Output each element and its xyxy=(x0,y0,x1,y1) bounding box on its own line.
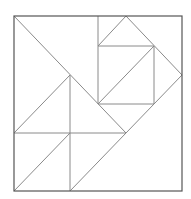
left-triangle-diagonal-line xyxy=(14,75,70,133)
segment-group xyxy=(14,16,182,191)
top-triangle-left-line xyxy=(98,16,126,46)
tangram-diagram xyxy=(0,0,191,199)
square-diagonal-line xyxy=(98,46,154,104)
bottom-left-diagonal-line xyxy=(14,133,70,191)
